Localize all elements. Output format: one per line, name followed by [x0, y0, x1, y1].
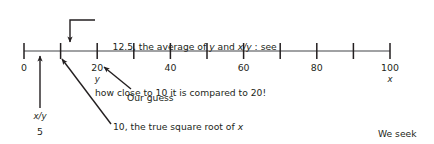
tick-label-0: 0: [21, 62, 27, 74]
x-over-y-label: x/y: [33, 111, 46, 122]
tick-label-20: 20: [91, 62, 103, 74]
average-callout-mid: and: [215, 41, 238, 52]
true-root-prefix: 10, the true square root of: [113, 121, 238, 132]
average-callout-var-xy: x/y: [238, 41, 252, 52]
average-callout-arrow: [70, 20, 95, 42]
average-callout-suffix: : see: [252, 41, 277, 52]
true-root-label: 10, the true square root of x: [113, 121, 243, 133]
x-over-y-value-label: 5: [37, 126, 43, 138]
square-root-number-line-figure: 12.5, the average of y and x/y : see how…: [0, 0, 434, 144]
average-callout-prefix: 12.5, the average of: [113, 41, 210, 52]
axis-variable-label-x: x: [387, 74, 392, 85]
axis-variable-label-y: y: [95, 74, 100, 85]
we-seek-line1: We seek: [378, 128, 427, 140]
we-seek-label: We seek the square root of x.: [378, 105, 427, 144]
tick-label-80: 80: [311, 62, 323, 74]
our-guess-label: Our guess: [127, 92, 174, 104]
tick-label-100: 100: [381, 62, 399, 74]
tick-label-40: 40: [164, 62, 176, 74]
tick-label-60: 60: [238, 62, 250, 74]
true-root-var: x: [238, 121, 243, 132]
average-callout-line2: how close to 10 it is compared to 20!: [95, 87, 277, 99]
average-callout-line1: 12.5, the average of y and x/y : see: [95, 29, 277, 64]
